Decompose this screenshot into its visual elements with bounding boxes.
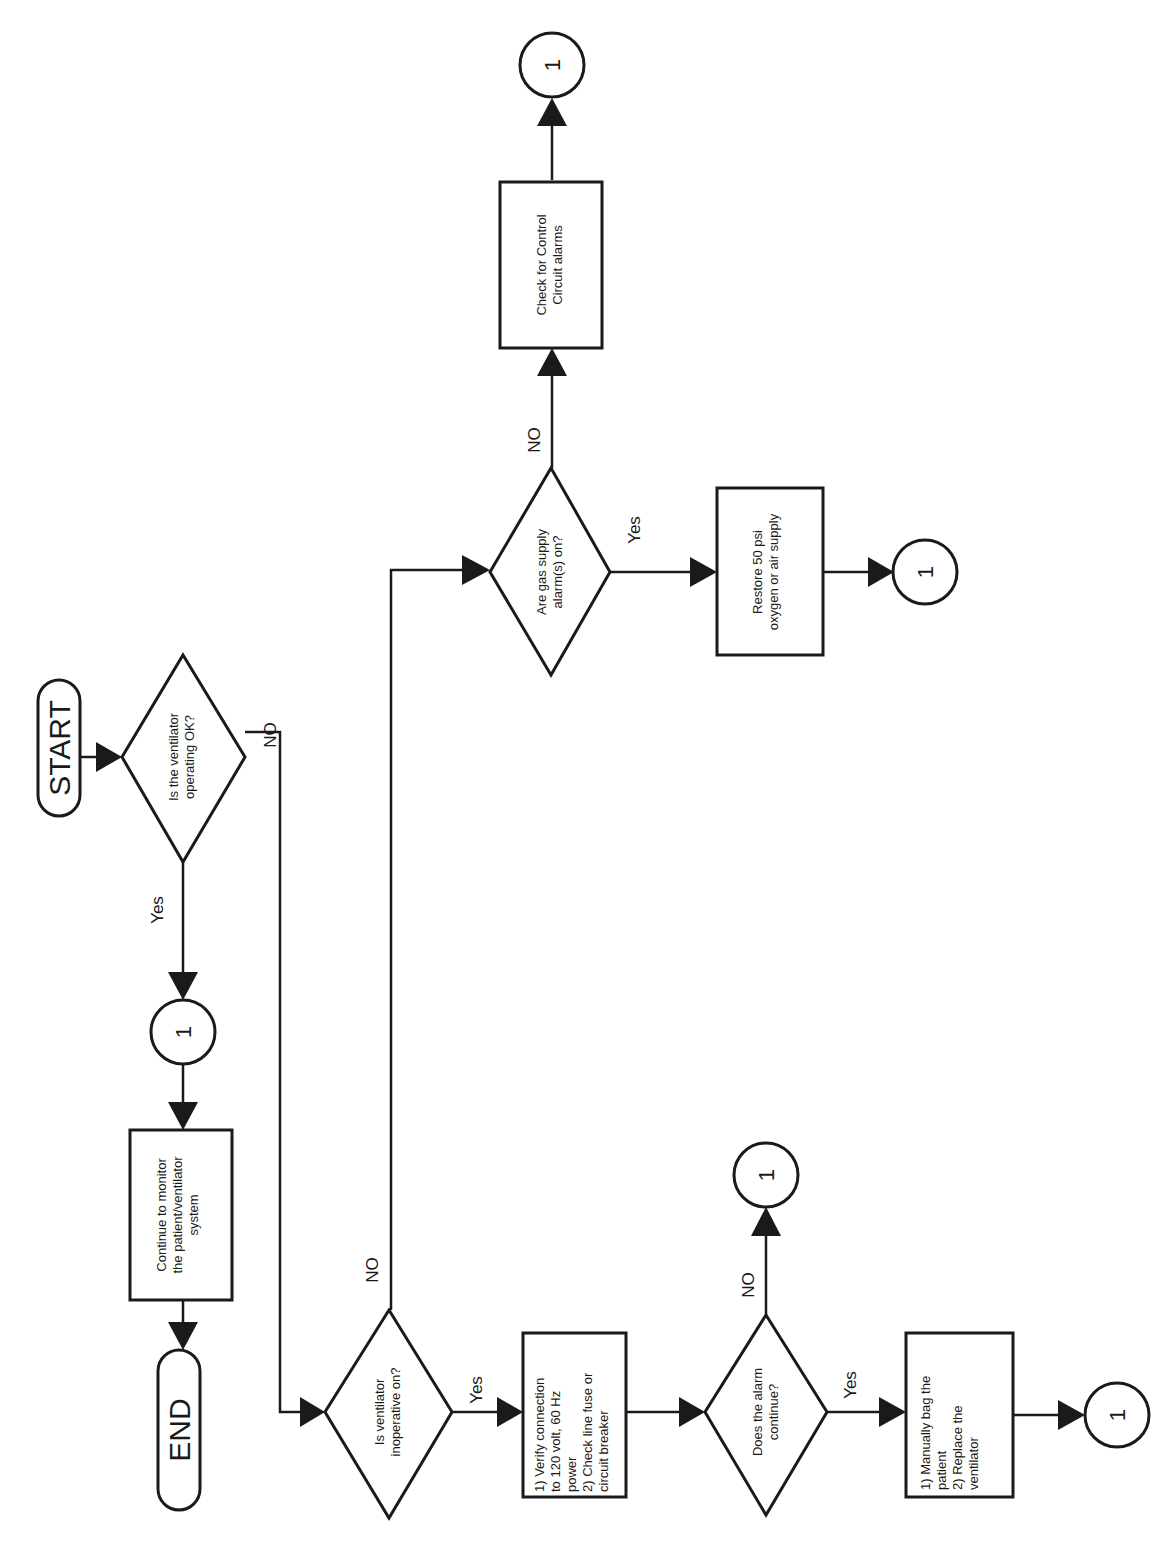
- start-label: START: [43, 700, 76, 796]
- arrow-up-icon: [537, 98, 567, 126]
- connector-a: 1: [151, 1000, 215, 1064]
- arrow-right-icon: [679, 1397, 705, 1427]
- process-check-control-alarms: Check for Control Circuit alarms: [500, 182, 602, 348]
- svg-text:Circuit alarms: Circuit alarms: [550, 225, 565, 305]
- svg-text:Is the ventilator: Is the ventilator: [166, 712, 181, 801]
- arrow-right-icon: [879, 1397, 906, 1427]
- arrow-right-icon: [868, 557, 894, 587]
- svg-text:1: 1: [1105, 1409, 1130, 1421]
- svg-text:1) Verify connection: 1) Verify connection: [532, 1378, 547, 1492]
- edge-label-no: NO: [261, 722, 280, 748]
- edge-label-no: NO: [739, 1272, 758, 1298]
- process-continue-monitor: Continue to monitor the patient/ventilat…: [130, 1130, 232, 1300]
- arrow-right-icon: [300, 1397, 325, 1427]
- connector-d: 1: [734, 1143, 798, 1207]
- arrow-down-icon: [168, 1322, 198, 1350]
- connector-c: 1: [893, 540, 957, 604]
- arrow-right-icon: [96, 742, 122, 772]
- svg-text:circuit breaker: circuit breaker: [596, 1410, 611, 1492]
- end-label: END: [163, 1398, 196, 1461]
- process-bag-patient: 1) Manually bag the patient 2) Replace t…: [906, 1333, 1013, 1497]
- decision-ventilator-operating-ok: Is the ventilator operating OK? NO Yes: [122, 655, 280, 924]
- flowchart: START Is the ventilator operating OK? NO…: [0, 0, 1174, 1566]
- decision-inoperative-on: Is ventilator inoperative on? NO Yes: [325, 1257, 486, 1518]
- svg-text:to 120 volt, 60 Hz: to 120 volt, 60 Hz: [548, 1391, 563, 1492]
- svg-text:Does the alarm: Does the alarm: [750, 1368, 765, 1456]
- edge-label-yes: Yes: [467, 1376, 486, 1404]
- svg-text:Are gas supply: Are gas supply: [534, 529, 549, 615]
- svg-text:1: 1: [754, 1169, 779, 1181]
- connector-b: 1: [520, 33, 584, 97]
- arrow-right-icon: [462, 555, 490, 585]
- arrow-down-icon: [168, 972, 198, 1000]
- svg-text:2) Replace the: 2) Replace the: [950, 1405, 965, 1490]
- svg-text:continue?: continue?: [766, 1384, 781, 1440]
- svg-text:inoperative on?: inoperative on?: [388, 1368, 403, 1457]
- svg-text:patient: patient: [934, 1451, 949, 1490]
- edge-label-yes: Yes: [148, 896, 167, 924]
- process-restore-supply: Restore 50 psi oxygen or air supply: [717, 488, 823, 655]
- edge-label-no: NO: [525, 427, 544, 453]
- edge-label-yes: Yes: [625, 516, 644, 544]
- arrow-right-icon: [1058, 1400, 1085, 1430]
- arrow-right-icon: [690, 557, 717, 587]
- connector-e: 1: [1085, 1383, 1149, 1447]
- svg-text:the patient/ventilator: the patient/ventilator: [170, 1156, 185, 1274]
- svg-text:Restore 50 psi: Restore 50 psi: [750, 530, 765, 614]
- edge-label-no: NO: [363, 1257, 382, 1283]
- svg-text:system: system: [186, 1194, 201, 1235]
- decision-alarm-continue: Does the alarm continue? NO Yes: [705, 1272, 860, 1515]
- edge-label-yes: Yes: [841, 1371, 860, 1399]
- svg-text:oxygen or air supply: oxygen or air supply: [766, 513, 781, 630]
- svg-text:Check for Control: Check for Control: [534, 214, 549, 315]
- svg-text:2) Check line fuse or: 2) Check line fuse or: [580, 1372, 595, 1492]
- svg-text:power: power: [564, 1456, 579, 1492]
- svg-text:Continue to monitor: Continue to monitor: [154, 1158, 169, 1272]
- svg-text:Is ventilator: Is ventilator: [372, 1378, 387, 1445]
- svg-text:ventilator: ventilator: [966, 1437, 981, 1490]
- end-terminator: END: [158, 1350, 200, 1510]
- svg-text:operating OK?: operating OK?: [182, 715, 197, 799]
- svg-text:1: 1: [171, 1026, 196, 1038]
- svg-text:1: 1: [913, 566, 938, 578]
- arrow-up-icon: [537, 348, 567, 376]
- arrow-up-icon: [751, 1207, 781, 1236]
- svg-text:alarm(s) on?: alarm(s) on?: [550, 536, 565, 609]
- arrow-down-icon: [168, 1102, 198, 1130]
- arrow-right-icon: [497, 1397, 523, 1427]
- svg-text:1) Manually bag the: 1) Manually bag the: [918, 1376, 933, 1490]
- svg-text:1: 1: [540, 59, 565, 71]
- start-terminator: START: [38, 680, 80, 816]
- decision-gas-supply-alarm: Are gas supply alarm(s) on? NO Yes: [490, 427, 644, 675]
- process-verify-power: 1) Verify connection to 120 volt, 60 Hz …: [523, 1333, 626, 1497]
